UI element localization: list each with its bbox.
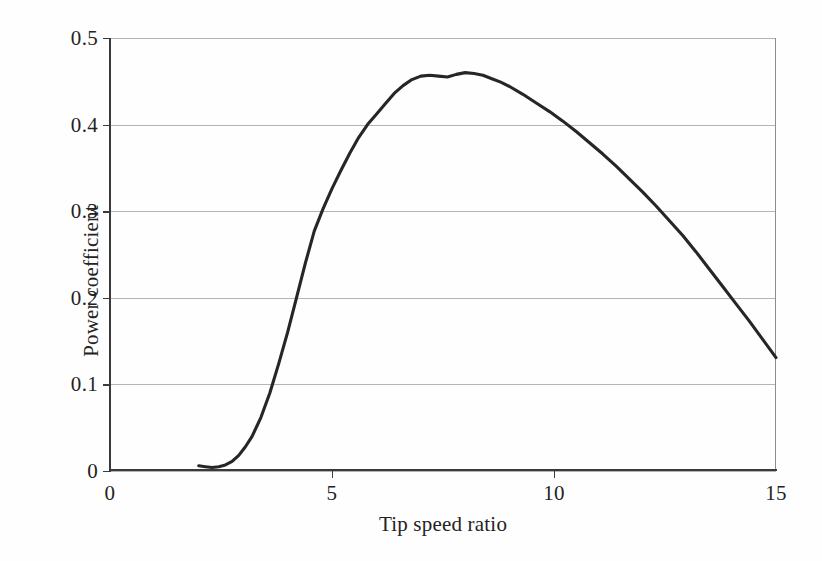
grid-line-y bbox=[110, 471, 776, 472]
x-tick-label: 5 bbox=[327, 481, 338, 506]
y-tick-mark bbox=[103, 471, 111, 472]
y-tick-label: 0.4 bbox=[71, 112, 98, 137]
y-tick-label: 0.3 bbox=[71, 199, 98, 224]
y-tick-label: 0.2 bbox=[71, 285, 98, 310]
power-coefficient-curve bbox=[199, 73, 776, 468]
y-tick-label: 0 bbox=[87, 459, 98, 484]
x-tick-mark bbox=[554, 470, 555, 478]
y-tick-label: 0.1 bbox=[71, 372, 98, 397]
plot-area: 00.10.20.30.40.5 051015 bbox=[110, 38, 776, 471]
x-tick-label: 0 bbox=[105, 481, 116, 506]
series-line-power-coefficient bbox=[110, 38, 776, 471]
y-axis-title: Power coefficient bbox=[79, 205, 104, 357]
x-tick-mark bbox=[332, 470, 333, 478]
y-tick-label: 0.5 bbox=[71, 26, 98, 51]
x-tick-label: 10 bbox=[543, 481, 565, 506]
chart-container: Power coefficient 00.10.20.30.40.5 05101… bbox=[0, 0, 822, 561]
x-tick-label: 15 bbox=[765, 481, 787, 506]
x-axis-title: Tip speed ratio bbox=[110, 512, 776, 537]
